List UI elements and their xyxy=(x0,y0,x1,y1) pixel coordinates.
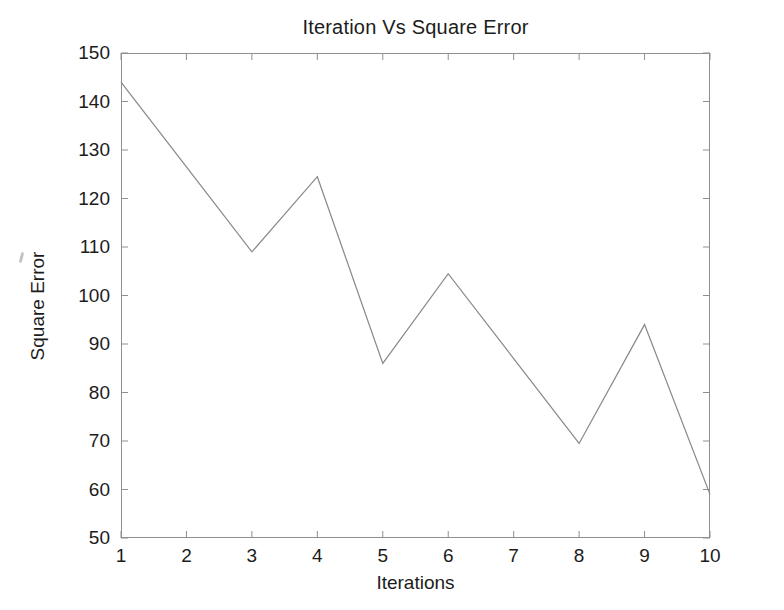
y-tick-label: 150 xyxy=(52,42,110,64)
y-tick-label: 140 xyxy=(52,91,110,113)
scan-artifact-mark xyxy=(19,252,25,263)
data-series-line xyxy=(121,82,710,494)
y-tick-label: 70 xyxy=(52,430,110,452)
x-tick-label: 8 xyxy=(559,545,599,567)
y-tick-label: 100 xyxy=(52,285,110,307)
x-tick-label: 9 xyxy=(625,545,665,567)
y-axis-tick-marks xyxy=(121,53,710,538)
y-axis-title: Square Error xyxy=(27,206,49,406)
y-tick-label: 80 xyxy=(52,382,110,404)
y-tick-label: 60 xyxy=(52,479,110,501)
y-tick-label: 120 xyxy=(52,188,110,210)
x-tick-label: 10 xyxy=(690,545,730,567)
chart-figure: Iteration Vs Square Error 50607080901001… xyxy=(0,0,784,610)
y-tick-label: 110 xyxy=(52,236,110,258)
x-tick-label: 4 xyxy=(297,545,337,567)
y-tick-label: 130 xyxy=(52,139,110,161)
x-tick-label: 2 xyxy=(166,545,206,567)
x-tick-label: 7 xyxy=(494,545,534,567)
x-tick-label: 5 xyxy=(363,545,403,567)
x-axis-title: Iterations xyxy=(121,572,710,594)
x-tick-label: 3 xyxy=(232,545,272,567)
plot-canvas xyxy=(121,53,710,538)
x-tick-label: 6 xyxy=(428,545,468,567)
y-tick-label: 90 xyxy=(52,333,110,355)
x-tick-label: 1 xyxy=(101,545,141,567)
chart-title: Iteration Vs Square Error xyxy=(121,16,710,39)
x-axis-tick-marks xyxy=(121,53,710,538)
